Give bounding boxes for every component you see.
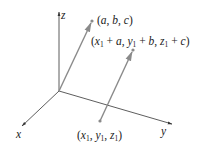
point-x1-y1-z1 bbox=[98, 119, 101, 122]
z-axis-label: z bbox=[61, 10, 65, 22]
vector-from-origin bbox=[59, 23, 91, 91]
x-axis bbox=[22, 91, 59, 126]
y-axis bbox=[59, 91, 172, 124]
x-axis-label: x bbox=[16, 129, 21, 141]
point-a-b-c bbox=[90, 19, 93, 22]
point-translated-tip-label: (x1 + a, y1 + b, z1 + c) bbox=[91, 36, 190, 49]
y-axis-label: y bbox=[161, 126, 166, 138]
point-x1-y1-z1-label: (x1, y1, z1) bbox=[77, 130, 122, 143]
point-a-b-c-label: (a, b, c) bbox=[97, 15, 133, 27]
